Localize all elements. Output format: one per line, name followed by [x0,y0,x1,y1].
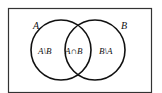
set-label-b: B [121,20,127,31]
set-label-a: A [32,20,40,31]
venn-diagram: A B A\B A∩B B\A [0,0,162,93]
region-b-minus-a: B\A [99,46,113,56]
region-a-minus-b: A\B [37,46,52,56]
region-a-intersect-b: A∩B [64,46,83,56]
